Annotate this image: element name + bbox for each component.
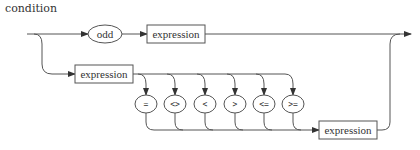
bottom-branch: expression = <> < > <= >= expression <box>34 34 400 139</box>
operator-eq-label: = <box>144 100 149 109</box>
operator-gt-label: > <box>233 100 238 109</box>
odd-label: odd <box>97 28 114 40</box>
operator-ge-label: >= <box>288 100 298 109</box>
railroad-diagram: odd expression expression = <> < > <= >= <box>0 0 420 150</box>
expression-label-left: expression <box>80 68 128 80</box>
expression-label-top: expression <box>152 28 200 40</box>
operator-le-label: <= <box>259 100 269 109</box>
operator-lt-label: < <box>203 100 208 109</box>
operator-ne-label: <> <box>170 100 180 109</box>
top-branch: odd expression <box>27 25 411 43</box>
expression-label-right: expression <box>324 124 372 136</box>
